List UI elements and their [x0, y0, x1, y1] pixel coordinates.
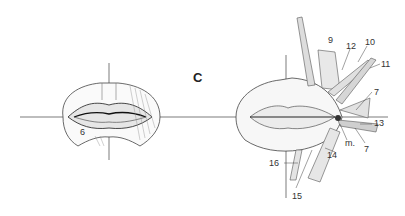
left-lips-view — [63, 63, 160, 160]
label-7-upper: 7 — [374, 88, 379, 97]
label-15: 15 — [292, 192, 302, 201]
label-13: 13 — [374, 119, 384, 128]
label-11: 11 — [381, 60, 390, 69]
label-6: 6 — [80, 128, 85, 137]
label-9: 9 — [328, 36, 333, 45]
label-14: 14 — [327, 151, 337, 160]
label-10: 10 — [365, 38, 375, 47]
label-16: 16 — [269, 159, 279, 168]
label-m: m. — [345, 139, 355, 148]
right-lips-view — [236, 17, 380, 198]
panel-letter: C — [193, 70, 202, 85]
label-12: 12 — [346, 42, 356, 51]
label-7-lower: 7 — [364, 145, 369, 154]
anatomical-illustration — [0, 0, 405, 216]
